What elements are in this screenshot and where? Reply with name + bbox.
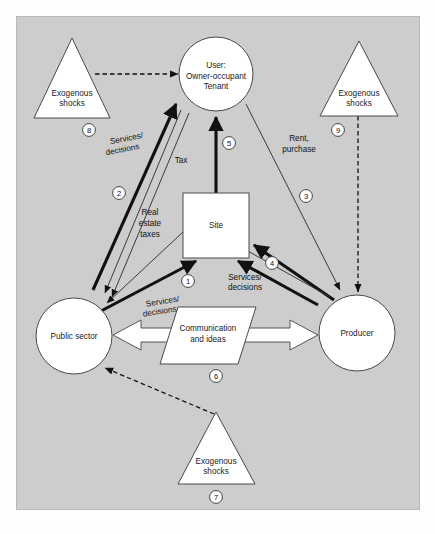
user-node-line3: Tenant (204, 82, 229, 91)
badge-2: 2 (113, 187, 126, 200)
svg-text:3: 3 (304, 192, 308, 201)
edge-shock-bottom-to-public (105, 368, 214, 414)
svg-text:estate: estate (139, 219, 162, 228)
badge-7: 7 (210, 491, 223, 504)
svg-text:6: 6 (214, 372, 218, 381)
edge-real-estate-taxes (107, 232, 183, 303)
shock-bottom-line1: Exogenous (196, 457, 237, 466)
badge-8: 8 (83, 124, 96, 137)
producer-label: Producer (340, 329, 373, 338)
label-services-decisions-producer: Services/ decisions (228, 273, 263, 292)
public-sector-label: Public sector (51, 332, 98, 341)
badge-5: 5 (223, 137, 236, 150)
site-node[interactable]: Site (183, 193, 249, 258)
svg-text:purchase: purchase (282, 145, 316, 154)
badge-4: 4 (266, 257, 279, 270)
label-rent-purchase: Rent, purchase (282, 134, 316, 154)
svg-text:1: 1 (186, 277, 190, 286)
svg-text:2: 2 (117, 189, 121, 198)
badge-6: 6 (210, 370, 223, 383)
shock-right-line1: Exogenous (339, 89, 380, 98)
shock-left-line2: shocks (59, 99, 84, 108)
svg-text:7: 7 (214, 493, 218, 502)
svg-text:Real: Real (142, 208, 159, 217)
exogenous-shocks-left[interactable]: Exogenous shocks (34, 38, 110, 118)
svg-text:decisions: decisions (228, 283, 262, 292)
communication-line1: Communication (180, 324, 237, 333)
svg-text:Services/: Services/ (228, 273, 262, 282)
label-services-decisions-public: Services/ decisions (142, 294, 181, 318)
svg-text:4: 4 (270, 259, 274, 268)
svg-text:Rent,: Rent, (289, 134, 309, 143)
svg-text:taxes: taxes (140, 230, 160, 239)
label-tax: Tax (175, 156, 188, 165)
exogenous-shocks-right[interactable]: Exogenous shocks (320, 41, 398, 116)
edge-rent-purchase (246, 104, 340, 290)
communication-node[interactable]: Communication and ideas (160, 307, 256, 364)
label-real-estate-taxes: Real estate taxes (139, 208, 162, 239)
shock-left-line1: Exogenous (52, 89, 93, 98)
svg-text:8: 8 (87, 126, 91, 135)
svg-text:Tax: Tax (175, 156, 188, 165)
diagram-canvas: User: Owner-occupant Tenant Site Public … (0, 0, 435, 534)
communication-line2: and ideas (190, 335, 226, 344)
user-node-line1: User: (206, 61, 226, 70)
producer-node[interactable]: Producer (319, 295, 395, 371)
svg-text:9: 9 (336, 126, 340, 135)
diagram-root: User: Owner-occupant Tenant Site Public … (0, 0, 435, 534)
badge-1: 1 (182, 275, 195, 288)
site-node-label: Site (209, 221, 224, 230)
user-node-line2: Owner-occupant (186, 72, 247, 81)
badge-3: 3 (300, 190, 313, 203)
label-services-decisions-user: Services/ decisions (105, 131, 145, 157)
svg-text:5: 5 (227, 139, 231, 148)
shock-right-line2: shocks (346, 99, 371, 108)
user-node[interactable]: User: Owner-occupant Tenant (179, 37, 253, 111)
shock-bottom-line2: shocks (203, 467, 228, 476)
exogenous-shocks-bottom[interactable]: Exogenous shocks (178, 412, 255, 484)
badge-9: 9 (332, 124, 345, 137)
public-sector-node[interactable]: Public sector (36, 298, 112, 374)
